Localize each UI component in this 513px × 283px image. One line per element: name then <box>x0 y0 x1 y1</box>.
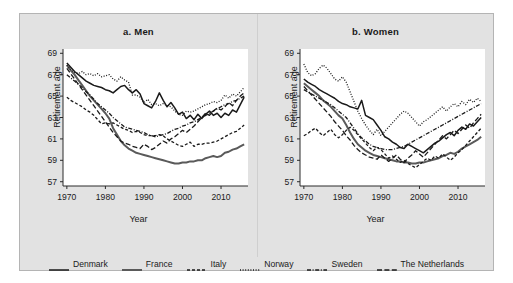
panel-women: b. Women Retirement age 5759616365676919… <box>257 14 494 242</box>
x-tick-label: 1990 <box>371 192 390 202</box>
legend-label: France <box>146 259 173 269</box>
legend-item-italy[interactable]: Italy <box>187 259 227 269</box>
y-tick-label: 61 <box>47 134 57 144</box>
x-tick-label: 2000 <box>173 192 192 202</box>
y-tick-label: 63 <box>47 113 57 123</box>
legend-line-swatch <box>49 260 69 268</box>
x-tick-label: 1990 <box>134 192 153 202</box>
chart-legend: DenmarkFranceItalyNorwaySwedenThe Nether… <box>20 257 493 271</box>
legend-label: The Netherlands <box>401 259 465 269</box>
x-axis-label-men: Year <box>20 214 257 224</box>
y-tick-label: 67 <box>284 70 294 80</box>
legend-item-norway[interactable]: Norway <box>240 259 293 269</box>
legend-label: Denmark <box>73 259 108 269</box>
x-tick-label: 2010 <box>211 192 230 202</box>
y-tick-label: 69 <box>47 48 57 58</box>
plot-area-men: 5759616365676919701980199020002010 <box>20 14 257 214</box>
legend-item-denmark[interactable]: Denmark <box>49 259 108 269</box>
y-tick-label: 69 <box>284 48 294 58</box>
y-tick-label: 61 <box>284 134 294 144</box>
legend-item-the-netherlands[interactable]: The Netherlands <box>377 259 465 269</box>
legend-line-swatch <box>240 260 260 268</box>
y-tick-label: 57 <box>47 177 57 187</box>
y-tick-label: 57 <box>284 177 294 187</box>
y-tick-label: 65 <box>284 91 294 101</box>
legend-line-swatch <box>307 260 327 268</box>
y-tick-label: 65 <box>47 91 57 101</box>
legend-line-swatch <box>122 260 142 268</box>
y-tick-label: 59 <box>284 155 294 165</box>
legend-line-swatch <box>377 260 397 268</box>
legend-label: Italy <box>211 259 227 269</box>
x-tick-label: 1970 <box>57 192 76 202</box>
legend-label: Sweden <box>331 259 362 269</box>
x-tick-label: 1970 <box>294 192 313 202</box>
y-tick-label: 63 <box>284 113 294 123</box>
legend-item-sweden[interactable]: Sweden <box>307 259 362 269</box>
plot-area-women: 5759616365676919701980199020002010 <box>257 14 494 214</box>
x-tick-label: 1980 <box>96 192 115 202</box>
x-axis-label-women: Year <box>257 214 494 224</box>
legend-line-swatch <box>187 260 207 268</box>
figure-container: a. Men Retirement age 575961636567691970… <box>19 13 494 271</box>
panel-men: a. Men Retirement age 575961636567691970… <box>20 14 257 242</box>
x-tick-label: 1980 <box>333 192 352 202</box>
legend-item-france[interactable]: France <box>122 259 173 269</box>
legend-label: Norway <box>264 259 293 269</box>
y-tick-label: 67 <box>47 70 57 80</box>
y-tick-label: 59 <box>47 155 57 165</box>
x-tick-label: 2010 <box>448 192 467 202</box>
x-tick-label: 2000 <box>410 192 429 202</box>
